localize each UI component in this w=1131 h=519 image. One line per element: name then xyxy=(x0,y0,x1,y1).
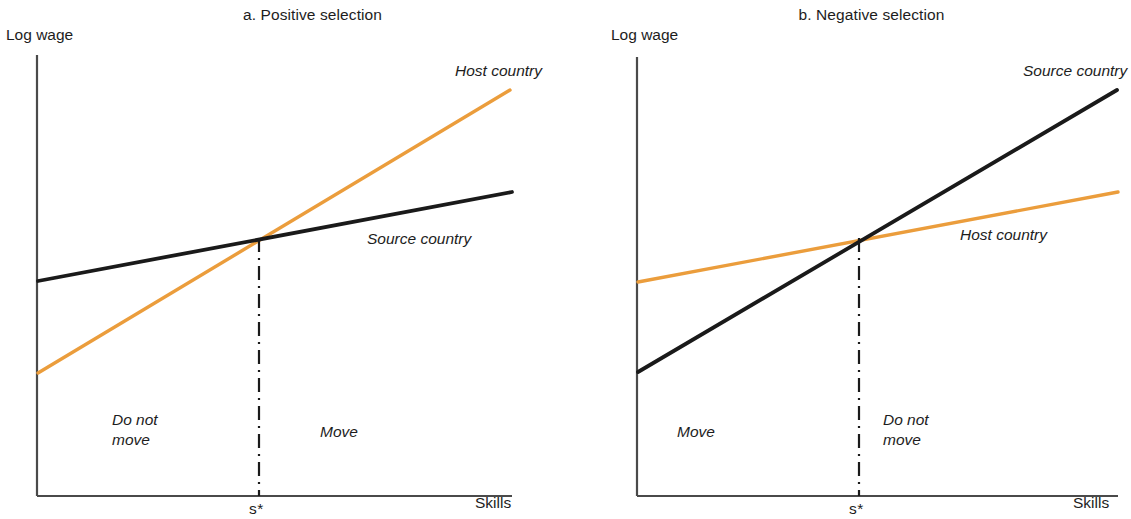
panel-b-region-do-not-move-line2: move xyxy=(883,430,929,450)
panel-positive-selection: a. Positive selection Log wage Skills Ho… xyxy=(0,0,565,519)
panel-a-region-do-not-move: Do not move xyxy=(112,410,158,450)
panel-b-region-do-not-move-line1: Do not xyxy=(883,410,929,430)
panel-a-region-move: Move xyxy=(320,422,358,442)
panel-b-threshold-tick-label: s* xyxy=(849,500,864,518)
panel-b-source-country-label: Source country xyxy=(1023,62,1127,80)
panel-negative-selection: b. Negative selection Log wage Skills So… xyxy=(565,0,1130,519)
panel-a-threshold-tick-label: s* xyxy=(249,500,264,518)
panel-a-region-do-not-move-line2: move xyxy=(112,430,158,450)
panel-a-host-country-label: Host country xyxy=(455,62,542,80)
panel-b-region-move: Move xyxy=(677,422,715,442)
panel-b-region-do-not-move: Do not move xyxy=(883,410,929,450)
panel-a-source-country-label: Source country xyxy=(367,230,471,248)
panel-b-host-country-label: Host country xyxy=(960,226,1047,244)
panel-a-region-do-not-move-line1: Do not xyxy=(112,410,158,430)
